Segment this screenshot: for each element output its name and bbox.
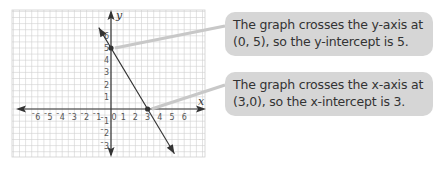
callout-text: (0, 5), so the y-intercept is 5. bbox=[233, 33, 425, 50]
x-tick-label: 6 bbox=[182, 113, 187, 122]
callout-text: The graph crosses the x-axis at bbox=[233, 76, 425, 93]
callout-text: (3,0), so the x-intercept is 3. bbox=[233, 93, 425, 110]
origin-label: 0 bbox=[111, 113, 116, 122]
x-tick-label: 2 bbox=[133, 113, 138, 122]
x-tick-label: 3 bbox=[145, 113, 150, 122]
x-tick-label: ¯3 bbox=[68, 113, 77, 122]
y-tick-label: ¯2 bbox=[100, 129, 109, 138]
x-tick-label: ¯5 bbox=[43, 113, 52, 122]
x-tick-label: 1 bbox=[121, 113, 126, 122]
y-tick-label: 5 bbox=[104, 44, 109, 53]
y-tick-label: ¯3 bbox=[100, 142, 109, 151]
y-tick-label: 3 bbox=[104, 68, 109, 77]
y-axis-label: y bbox=[115, 9, 123, 22]
y-tick-label: 4 bbox=[104, 56, 109, 65]
y-tick-label: 1 bbox=[104, 93, 109, 102]
x-tick-label: 5 bbox=[169, 113, 174, 122]
intercept-point bbox=[108, 45, 113, 50]
x-tick-label: ¯4 bbox=[56, 113, 65, 122]
intercept-point bbox=[145, 106, 150, 111]
y-tick-label: 2 bbox=[104, 81, 109, 90]
x-axis-label: x bbox=[198, 95, 205, 108]
callout-leader-line bbox=[115, 26, 225, 48]
y-intercept-callout: The graph crosses the y-axis at (0, 5), … bbox=[225, 12, 433, 56]
x-tick-label: ¯2 bbox=[80, 113, 89, 122]
y-tick-label: ¯1 bbox=[100, 117, 109, 126]
callout-text: The graph crosses the y-axis at bbox=[233, 16, 425, 33]
x-tick-label: ¯6 bbox=[31, 113, 40, 122]
x-intercept-callout: The graph crosses the x-axis at (3,0), s… bbox=[225, 72, 433, 116]
x-tick-label: 4 bbox=[157, 113, 162, 122]
